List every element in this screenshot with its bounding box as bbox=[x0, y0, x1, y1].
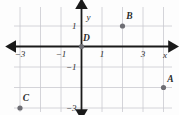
x-tick-label: −1 bbox=[56, 49, 67, 59]
grid-lines bbox=[14, 7, 172, 112]
coordinate-plane-svg: −3−1131−1−3 ABCD xy bbox=[0, 0, 179, 115]
point-marker bbox=[120, 23, 125, 28]
point-marker bbox=[79, 44, 84, 49]
x-tick-label: 1 bbox=[100, 49, 105, 59]
point-label: D bbox=[82, 33, 90, 43]
axes bbox=[16, 9, 170, 111]
x-tick-label: 3 bbox=[140, 49, 146, 59]
y-tick-label: −1 bbox=[66, 62, 77, 72]
x-axis-name: x bbox=[162, 50, 167, 60]
y-tick-label: 1 bbox=[72, 21, 77, 31]
point-marker bbox=[161, 85, 166, 90]
point-label: C bbox=[23, 93, 30, 103]
y-axis-name: y bbox=[86, 12, 91, 22]
point-marker bbox=[17, 105, 22, 110]
point-label: A bbox=[166, 74, 173, 84]
x-tick-label: −3 bbox=[15, 49, 26, 59]
coordinate-plane-figure: −3−1131−1−3 ABCD xy bbox=[0, 0, 179, 115]
y-tick-label: −3 bbox=[66, 103, 77, 113]
point-label: B bbox=[125, 11, 132, 21]
